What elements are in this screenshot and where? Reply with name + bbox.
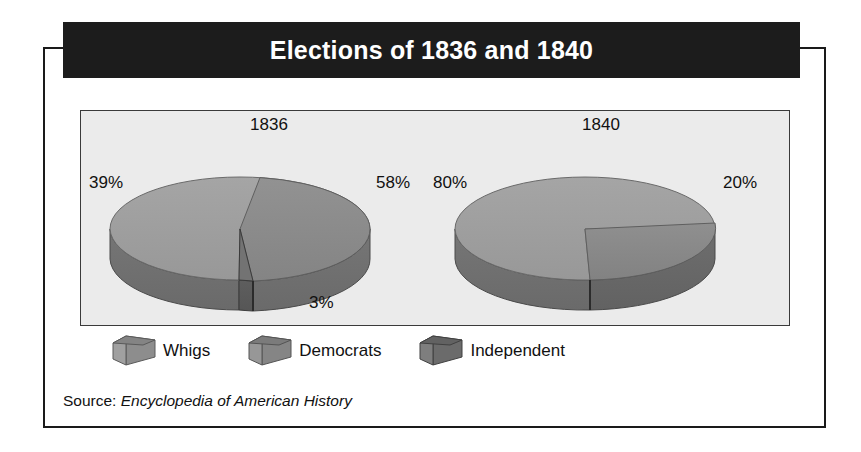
legend-item-independent: Independent: [419, 334, 565, 368]
pie-chart-1836-graphic: [85, 111, 435, 327]
source-title: Encyclopedia of American History: [121, 392, 352, 409]
source-note: Source: Encyclopedia of American History: [63, 392, 352, 410]
pie-chart-1840: 1840: [433, 111, 783, 327]
pie-1836-label-whigs: 39%: [89, 173, 123, 193]
pie-chart-1836: 1836: [85, 111, 435, 327]
pie-chart-1840-graphic: [433, 111, 783, 327]
source-prefix: Source:: [63, 392, 121, 409]
legend-swatch-independent-icon: [419, 334, 463, 368]
legend-swatch-whigs-icon: [112, 334, 156, 368]
chart-panel: 1836: [80, 110, 790, 326]
legend-label-whigs: Whigs: [163, 341, 210, 361]
pie-1840-label-democrats: 20%: [723, 173, 757, 193]
legend-label-independent: Independent: [470, 341, 565, 361]
pie-1836-independent-wall: [239, 280, 253, 311]
chart-legend: Whigs Democrats Independent: [112, 334, 565, 368]
pie-1836-label-independent: 3%: [309, 293, 334, 313]
legend-swatch-democrats-icon: [248, 334, 292, 368]
pie-1840-label-whigs: 80%: [433, 173, 467, 193]
figure-title-banner: Elections of 1836 and 1840: [63, 22, 800, 78]
page-title: Elections of 1836 and 1840: [270, 38, 593, 63]
legend-item-whigs: Whigs: [112, 334, 210, 368]
legend-item-democrats: Democrats: [248, 334, 381, 368]
pie-1836-label-democrats: 58%: [376, 173, 410, 193]
legend-label-democrats: Democrats: [299, 341, 381, 361]
